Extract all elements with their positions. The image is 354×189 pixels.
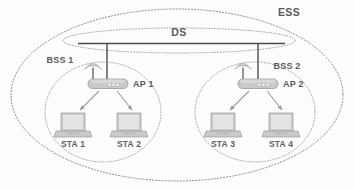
sta4-label: STA 4 [269, 139, 293, 149]
ap1-port-3-icon [116, 83, 119, 86]
sta2-laptop-keyboard [123, 132, 135, 134]
sta4-node [262, 113, 300, 137]
sta1-laptop-display [63, 115, 83, 129]
ap1-label: AP 1 [133, 79, 154, 89]
sta3-node [204, 113, 242, 137]
ap1-router-top [91, 80, 125, 84]
ap1-to-sta1-arrow [80, 91, 99, 110]
sta4-laptop-display [271, 115, 291, 129]
ap2-label: AP 2 [283, 79, 304, 89]
sta3-laptop-display [213, 115, 233, 129]
sta1-laptop-keyboard [67, 132, 79, 134]
ess-label: ESS [278, 6, 300, 18]
bss2-label: BSS 2 [273, 61, 300, 71]
sta2-node [110, 113, 148, 137]
ap2-router-top [241, 80, 275, 84]
sta3-laptop-keyboard [217, 132, 229, 134]
bss1-label: BSS 1 [46, 55, 73, 65]
sta1-node [54, 113, 92, 137]
sta2-label: STA 2 [117, 139, 141, 149]
sta1-label: STA 1 [61, 139, 85, 149]
ap1-to-sta2-arrow [117, 91, 132, 110]
ap2-port-1-icon [258, 83, 261, 86]
ap2-node [235, 64, 279, 89]
diagram-canvas: ESS DS BSS 1 AP 1 [0, 0, 354, 189]
ap2-port-2-icon [262, 83, 265, 86]
ap2-to-sta4-arrow [267, 91, 282, 110]
sta2-laptop-display [119, 115, 139, 129]
network-topology-diagram: ESS DS BSS 1 AP 1 [0, 0, 354, 189]
ap1-port-1-icon [108, 83, 111, 86]
ap2-to-sta3-arrow [230, 91, 249, 110]
ap1-node [85, 64, 129, 89]
ap1-port-2-icon [112, 83, 115, 86]
sta4-laptop-keyboard [275, 132, 287, 134]
ds-label: DS [171, 26, 186, 38]
sta3-label: STA 3 [211, 139, 235, 149]
ap2-port-3-icon [266, 83, 269, 86]
